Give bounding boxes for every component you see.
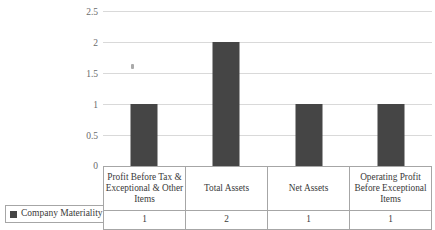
bar-slot — [185, 11, 267, 166]
bar-slot — [268, 11, 350, 166]
y-tick-label: 1 — [70, 101, 98, 111]
legend: Company Materiality — [5, 205, 103, 223]
y-tick-label: 0.5 — [70, 132, 98, 142]
data-table: Profit Before Tax & Exceptional & Other … — [103, 166, 432, 230]
y-tick-label: 2 — [70, 39, 98, 49]
y-tick-label: 2.5 — [70, 8, 98, 18]
scan-artifact-speck — [131, 64, 134, 69]
category-cell: Net Assets — [268, 167, 350, 211]
y-tick-label: 1.5 — [70, 70, 98, 80]
value-cell: 1 — [268, 211, 350, 230]
table-row-categories: Profit Before Tax & Exceptional & Other … — [104, 167, 432, 211]
table-row-values: 1 2 1 1 — [104, 211, 432, 230]
bar-net-assets[interactable] — [295, 104, 322, 166]
y-tick-label: 0 — [70, 162, 98, 172]
legend-swatch-icon — [10, 211, 17, 218]
category-cell: Total Assets — [186, 167, 268, 211]
category-cell: Profit Before Tax & Exceptional & Other … — [104, 167, 186, 211]
legend-label: Company Materiality — [21, 209, 103, 219]
value-cell: 1 — [350, 211, 432, 230]
bar-operating-profit[interactable] — [377, 104, 404, 166]
bar-profit-before-tax[interactable] — [131, 104, 158, 166]
bar-total-assets[interactable] — [213, 42, 240, 166]
bar-chart: 2.5 2 1.5 1 0.5 0 Profit Bef — [0, 0, 435, 230]
category-cell: Operating Profit Before Exceptional Item… — [350, 167, 432, 211]
bar-slot — [103, 11, 185, 166]
value-cell: 1 — [104, 211, 186, 230]
bar-slot — [350, 11, 432, 166]
bars-layer — [103, 11, 432, 166]
value-cell: 2 — [186, 211, 268, 230]
